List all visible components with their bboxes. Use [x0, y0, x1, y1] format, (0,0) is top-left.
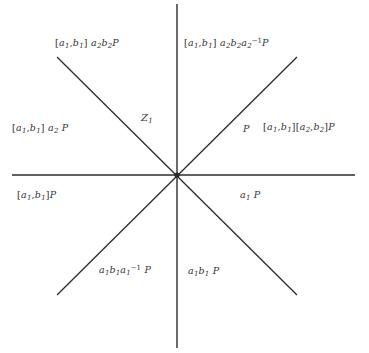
label-p-marker: P: [243, 124, 250, 134]
coset-diagram-lines: [0, 0, 369, 353]
label-left-upper: [a1,b1] a2 P: [12, 123, 68, 135]
label-left-lower: [a1,b1]P: [17, 190, 56, 202]
label-right-lower: a1 P: [240, 190, 260, 202]
label-bottom-left: a1b1a1−1 P: [99, 265, 151, 277]
label-z1: Z1: [141, 113, 153, 125]
center-vertex: [174, 172, 179, 177]
label-bottom-right: a1b1 P: [188, 266, 219, 278]
label-top-right: [a1,b1] a2b2a2−1P: [184, 38, 269, 50]
label-top-left: [a1,b1] a2b2P: [55, 38, 119, 50]
label-right-upper: [a1,b1][a2,b2]P: [263, 122, 335, 134]
diagram-canvas: [a1,b1] a2b2P [a1,b1] a2b2P [a1,b1] a2b2…: [0, 0, 369, 353]
